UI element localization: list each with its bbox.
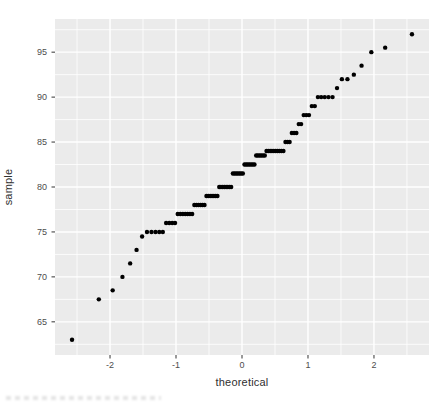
data-point bbox=[263, 153, 267, 157]
data-point bbox=[307, 113, 311, 117]
data-point bbox=[340, 77, 344, 81]
data-point bbox=[281, 149, 285, 153]
data-point bbox=[294, 131, 298, 135]
data-point bbox=[140, 234, 144, 238]
data-point bbox=[323, 95, 327, 99]
data-point bbox=[120, 275, 124, 279]
data-point bbox=[313, 104, 317, 108]
data-point bbox=[161, 230, 165, 234]
y-tick-label: 65 bbox=[37, 317, 47, 327]
data-point bbox=[352, 72, 356, 76]
data-point bbox=[128, 261, 132, 265]
x-tick-label: -1 bbox=[172, 360, 180, 370]
data-point bbox=[326, 95, 330, 99]
data-point bbox=[149, 230, 153, 234]
y-axis-title: sample bbox=[2, 157, 14, 217]
plot-area: -2-101265707580859095 bbox=[0, 0, 446, 405]
y-tick-label: 90 bbox=[37, 92, 47, 102]
data-point bbox=[97, 297, 101, 301]
data-point bbox=[202, 203, 206, 207]
data-point bbox=[229, 185, 233, 189]
cropped-caption-fragment bbox=[6, 396, 161, 400]
data-point bbox=[145, 230, 149, 234]
data-point bbox=[70, 338, 74, 342]
data-point bbox=[359, 63, 363, 67]
data-point bbox=[252, 162, 256, 166]
data-point bbox=[410, 32, 414, 36]
data-point bbox=[110, 288, 114, 292]
data-point bbox=[190, 212, 194, 216]
data-point bbox=[241, 171, 245, 175]
x-axis-title: theoretical bbox=[55, 376, 429, 388]
x-tick-label: 0 bbox=[239, 360, 244, 370]
data-point bbox=[173, 221, 177, 225]
qq-plot-figure: -2-101265707580859095 theoretical sample bbox=[0, 0, 446, 405]
data-point bbox=[345, 77, 349, 81]
y-tick-label: 70 bbox=[37, 272, 47, 282]
data-point bbox=[134, 248, 138, 252]
y-tick-label: 95 bbox=[37, 47, 47, 57]
x-tick-label: 2 bbox=[371, 360, 376, 370]
y-tick-label: 85 bbox=[37, 137, 47, 147]
y-tick-label: 75 bbox=[37, 227, 47, 237]
data-point bbox=[330, 95, 334, 99]
data-point bbox=[299, 122, 303, 126]
data-point bbox=[383, 45, 387, 49]
data-point bbox=[287, 140, 291, 144]
data-point bbox=[369, 50, 373, 54]
x-tick-label: -2 bbox=[106, 360, 114, 370]
data-point bbox=[153, 230, 157, 234]
data-point bbox=[335, 86, 339, 90]
data-point bbox=[215, 194, 219, 198]
y-tick-label: 80 bbox=[37, 182, 47, 192]
x-tick-label: 1 bbox=[305, 360, 310, 370]
